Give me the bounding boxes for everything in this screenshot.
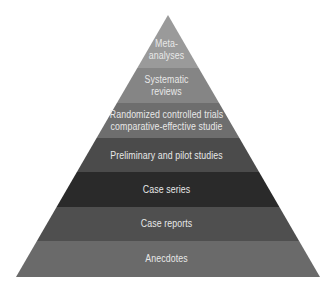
label-line: Anecdotes [20,253,313,265]
label-preliminary: Preliminary and pilot studies [20,150,313,162]
label-rct: Randomized controlled trials comparative… [20,109,313,133]
label-line: Case series [20,184,313,196]
label-line: Preliminary and pilot studies [20,150,313,162]
label-line: analyses [20,50,313,62]
label-line: Randomized controlled trials [20,109,313,121]
label-line: Systematic [20,74,313,86]
label-anecdotes: Anecdotes [20,253,313,265]
label-case-reports: Case reports [20,218,313,230]
label-meta-analyses: Meta- analyses [20,38,313,62]
label-line: comparative-effective studie [20,121,313,133]
label-line: Meta- [20,38,313,50]
label-line: Case reports [20,218,313,230]
label-systematic-reviews: Systematic reviews [20,74,313,98]
label-line: reviews [20,86,313,98]
label-case-series: Case series [20,184,313,196]
